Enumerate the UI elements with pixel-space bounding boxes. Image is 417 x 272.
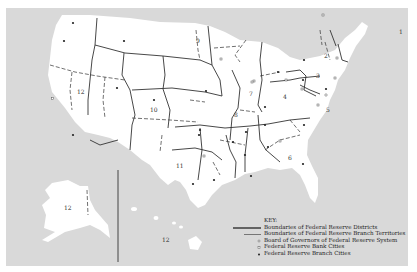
svg-text:4: 4 [283, 93, 287, 100]
svg-text:3: 3 [316, 72, 320, 79]
key-item-branch-cities: Federal Reserve Branch Cities [264, 250, 405, 257]
alaska [42, 180, 110, 242]
key-item-branch-boundaries: Boundaries of Federal Reserve Branch Ter… [264, 230, 405, 237]
key-item-board-of-governors: Board of Governors of Federal Reserve Sy… [264, 237, 405, 244]
svg-text:9: 9 [196, 37, 200, 44]
map-key: KEY: Boundaries of Federal Reserve Distr… [264, 217, 405, 257]
svg-text:10: 10 [150, 106, 158, 113]
hawaii [131, 207, 202, 250]
continental-us [48, 15, 368, 208]
board-of-governors-marker [325, 94, 327, 96]
svg-text:12: 12 [77, 88, 85, 95]
svg-text:7: 7 [249, 90, 253, 97]
svg-text:11: 11 [176, 162, 184, 169]
svg-text:8: 8 [234, 111, 238, 118]
svg-text:12: 12 [162, 236, 170, 243]
svg-text:6: 6 [288, 154, 292, 161]
svg-text:5: 5 [326, 106, 330, 113]
key-item-bank-cities: Federal Reserve Bank Cities [264, 243, 405, 250]
key-item-district-boundaries: Boundaries of Federal Reserve Districts [264, 224, 405, 231]
svg-text:1: 1 [399, 28, 403, 35]
svg-text:12: 12 [64, 204, 72, 211]
svg-text:2: 2 [324, 52, 328, 59]
key-symbols [233, 228, 261, 256]
key-title: KEY: [264, 217, 405, 224]
